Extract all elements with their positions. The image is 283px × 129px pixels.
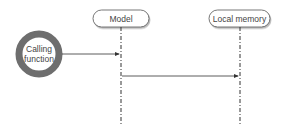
participant-model: Model xyxy=(93,10,149,124)
sequence-diagram: Calling function Model Local memory xyxy=(0,0,283,129)
actor-label-line2: function xyxy=(24,54,54,64)
participant-local-memory: Local memory xyxy=(209,10,270,124)
calling-function-actor: Calling function xyxy=(19,34,59,74)
participant-label: Model xyxy=(109,14,132,24)
participant-label: Local memory xyxy=(213,14,267,24)
actor-label-line1: Calling xyxy=(26,44,52,54)
